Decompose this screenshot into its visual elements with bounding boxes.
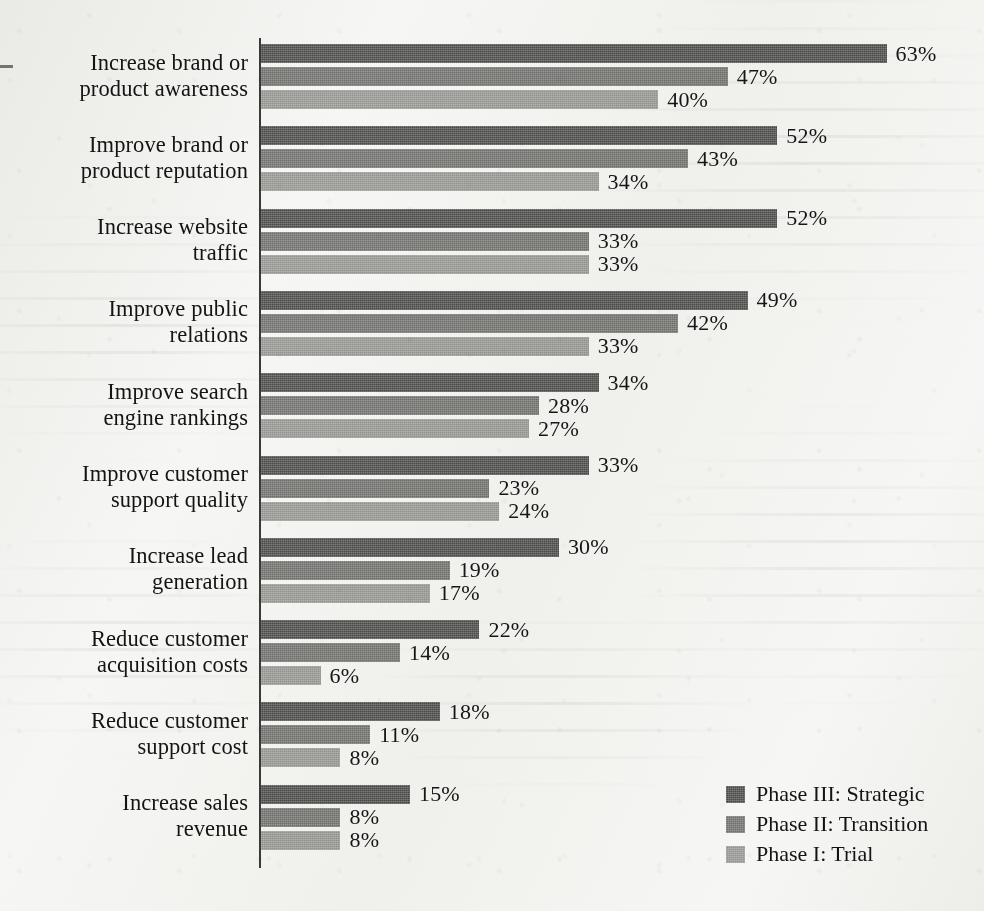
legend-item: Phase II: Transition bbox=[726, 809, 928, 839]
bar-row: 14% bbox=[261, 643, 450, 662]
category-label: Improve searchengine rankings bbox=[3, 379, 248, 431]
bar-row: 33% bbox=[261, 232, 639, 251]
bar-value-label: 22% bbox=[488, 619, 529, 641]
bar bbox=[261, 538, 559, 557]
bar-value-label: 34% bbox=[608, 171, 649, 193]
bar-row: 52% bbox=[261, 126, 827, 145]
bar-row: 42% bbox=[261, 314, 728, 333]
bar bbox=[261, 419, 529, 438]
category-label-line: engine rankings bbox=[3, 405, 248, 431]
category-label: Reduce customersupport cost bbox=[3, 708, 248, 760]
bar-row: 19% bbox=[261, 561, 500, 580]
bar-row: 22% bbox=[261, 620, 529, 639]
bar-row: 34% bbox=[261, 172, 649, 191]
bar-row: 34% bbox=[261, 373, 649, 392]
bar-value-label: 47% bbox=[737, 66, 778, 88]
bar-value-label: 42% bbox=[687, 312, 728, 334]
bar-group: 49%42%33% bbox=[261, 291, 984, 360]
bar-value-label: 33% bbox=[598, 454, 639, 476]
category-label: Reduce customeracquisition costs bbox=[3, 626, 248, 678]
category-label-line: Improve customer bbox=[3, 461, 248, 487]
bar bbox=[261, 314, 678, 333]
bar-value-label: 24% bbox=[508, 500, 549, 522]
category-label-line: Improve public bbox=[3, 296, 248, 322]
bar-row: 33% bbox=[261, 337, 639, 356]
legend-label: Phase II: Transition bbox=[756, 811, 928, 837]
category-label-line: generation bbox=[3, 569, 248, 595]
category-label-line: Increase brand or bbox=[3, 50, 248, 76]
bar bbox=[261, 502, 499, 521]
bar-row: 47% bbox=[261, 67, 778, 86]
bar-value-label: 40% bbox=[667, 89, 708, 111]
category-label-line: support cost bbox=[3, 734, 248, 760]
bar-value-label: 33% bbox=[598, 335, 639, 357]
bar-value-label: 8% bbox=[349, 806, 379, 828]
bar-value-label: 52% bbox=[786, 207, 827, 229]
bar-row: 33% bbox=[261, 456, 639, 475]
category-label-line: traffic bbox=[3, 240, 248, 266]
bar-value-label: 27% bbox=[538, 418, 579, 440]
bar-value-label: 11% bbox=[379, 724, 419, 746]
category-label: Increase leadgeneration bbox=[3, 543, 248, 595]
category-label-line: Improve search bbox=[3, 379, 248, 405]
category-label: Increase websitetraffic bbox=[3, 214, 248, 266]
bar-row: 24% bbox=[261, 502, 549, 521]
bar-value-label: 34% bbox=[608, 372, 649, 394]
bar bbox=[261, 702, 440, 721]
bar-value-label: 14% bbox=[409, 642, 450, 664]
bar bbox=[261, 149, 688, 168]
bar-value-label: 8% bbox=[349, 829, 379, 851]
bar-row: 33% bbox=[261, 255, 639, 274]
category-label-line: revenue bbox=[3, 816, 248, 842]
bar bbox=[261, 561, 450, 580]
bar-value-label: 19% bbox=[459, 559, 500, 581]
category-label-line: Improve brand or bbox=[3, 132, 248, 158]
bar-value-label: 33% bbox=[598, 253, 639, 275]
bar bbox=[261, 479, 489, 498]
bar-value-label: 15% bbox=[419, 783, 460, 805]
bar-row: 28% bbox=[261, 396, 589, 415]
bar bbox=[261, 126, 777, 145]
category-label-line: product awareness bbox=[3, 76, 248, 102]
bar-value-label: 18% bbox=[449, 701, 490, 723]
category-label: Improve brand orproduct reputation bbox=[3, 132, 248, 184]
bar bbox=[261, 373, 599, 392]
bar-value-label: 30% bbox=[568, 536, 609, 558]
bar bbox=[261, 584, 430, 603]
bar bbox=[261, 666, 321, 685]
bar-value-label: 43% bbox=[697, 148, 738, 170]
bar-row: 40% bbox=[261, 90, 708, 109]
bar-group: 63%47%40% bbox=[261, 44, 984, 113]
bar-group: 33%23%24% bbox=[261, 456, 984, 525]
plot-area: 63%47%40%52%43%34%52%33%33%49%42%33%34%2… bbox=[261, 38, 984, 868]
category-label-line: Increase lead bbox=[3, 543, 248, 569]
bar bbox=[261, 172, 599, 191]
bar-group: 22%14%6% bbox=[261, 620, 984, 689]
bar bbox=[261, 785, 410, 804]
bar bbox=[261, 232, 589, 251]
bar-row: 52% bbox=[261, 209, 827, 228]
legend-item: Phase III: Strategic bbox=[726, 779, 928, 809]
category-label-line: product reputation bbox=[3, 158, 248, 184]
chart-legend: Phase III: StrategicPhase II: Transition… bbox=[726, 779, 928, 869]
bar-row: 23% bbox=[261, 479, 539, 498]
bar-row: 49% bbox=[261, 291, 798, 310]
bar-value-label: 33% bbox=[598, 230, 639, 252]
bar-row: 43% bbox=[261, 149, 738, 168]
category-label-line: Increase website bbox=[3, 214, 248, 240]
bar-group: 18%11%8% bbox=[261, 702, 984, 771]
bar bbox=[261, 456, 589, 475]
bar-value-label: 49% bbox=[757, 289, 798, 311]
bar-group: 52%33%33% bbox=[261, 209, 984, 278]
bar bbox=[261, 90, 658, 109]
bar-row: 30% bbox=[261, 538, 609, 557]
bar-row: 27% bbox=[261, 419, 579, 438]
bar bbox=[261, 725, 370, 744]
bar-value-label: 17% bbox=[439, 582, 480, 604]
bar-row: 17% bbox=[261, 584, 480, 603]
bar-row: 8% bbox=[261, 808, 379, 827]
category-axis-labels: Increase brand orproduct awarenessImprov… bbox=[0, 38, 248, 868]
bar bbox=[261, 67, 728, 86]
bar-value-label: 28% bbox=[548, 395, 589, 417]
legend-color-swatch bbox=[726, 786, 745, 803]
